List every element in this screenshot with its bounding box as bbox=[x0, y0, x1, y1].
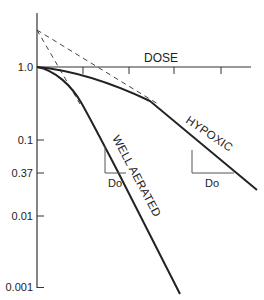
y-label-0.1: 0.1 bbox=[18, 134, 33, 146]
do-label-aerated: Do bbox=[108, 177, 122, 189]
do-label-hypoxic: Do bbox=[205, 177, 219, 189]
y-label-0.37: 0.37 bbox=[12, 167, 33, 179]
hypoxic-curve bbox=[37, 67, 257, 190]
survival-curve-chart: 1.0 0.1 0.37 0.01 0.001 DOSE Do Do WELL … bbox=[0, 0, 264, 300]
hypoxic-label: HYPOXIC bbox=[184, 114, 235, 154]
y-label-0.01: 0.01 bbox=[12, 210, 33, 222]
x-axis-title: DOSE bbox=[144, 51, 178, 65]
y-label-1.0: 1.0 bbox=[18, 61, 33, 73]
y-label-0.001: 0.001 bbox=[5, 281, 33, 293]
